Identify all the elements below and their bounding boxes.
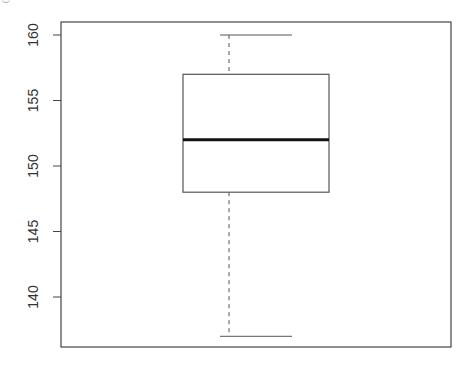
iqr-box [183, 74, 329, 192]
y-tick-label: 160 [25, 23, 41, 47]
y-tick-label: 155 [25, 89, 41, 113]
y-tick-label: 140 [25, 285, 41, 309]
y-tick-label: 150 [25, 154, 41, 178]
y-tick-label: 145 [25, 220, 41, 244]
boxplot-chart: 140145150155160 [0, 0, 473, 371]
